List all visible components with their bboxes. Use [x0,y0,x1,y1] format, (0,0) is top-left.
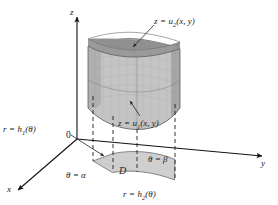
lower-label-var: z [117,118,122,128]
upper-label-var: z [153,16,158,26]
polar-solid-diagram: z y x 0 z=u2(x, y) z=u1(x, y) r=h1(θ) r=… [0,0,278,205]
inner-label-args: (θ) [25,124,35,134]
region-D-label: D [118,165,127,176]
z-axis-label: z [69,7,74,17]
y-axis-label: y [260,158,265,168]
solid-left-face [88,42,101,109]
outer-label-args: (θ) [145,189,155,199]
inner-label-var: r [3,124,7,134]
outer-label-eq: = [130,189,135,199]
upper-label-args: (x, y) [176,16,194,26]
upper-label-eq: = [161,16,166,26]
origin-label: 0 [66,130,71,140]
lower-label-args: (x, y) [140,118,158,128]
theta-start-label: θ = α [66,170,86,180]
theta-end-label: θ = β [148,154,168,164]
inner-label-eq: = [10,124,15,134]
x-axis-label: x [6,184,11,194]
outer-label-var: r [123,189,127,199]
lower-label-eq: = [125,118,130,128]
